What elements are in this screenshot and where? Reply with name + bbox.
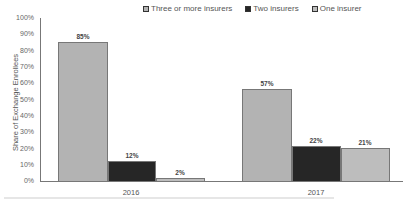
bar-label: 21% xyxy=(345,139,385,146)
legend-swatch-three-or-more xyxy=(143,6,149,12)
bar-2017-three-or-more xyxy=(242,89,292,182)
y-tick: 80% xyxy=(10,47,34,54)
y-tick: 60% xyxy=(10,79,34,86)
bar-2017-one xyxy=(341,148,390,182)
bar-2016-two xyxy=(108,161,156,182)
y-tick: 100% xyxy=(10,14,34,21)
source-note xyxy=(4,197,334,199)
bar-label: 2% xyxy=(160,169,200,176)
bar-label: 22% xyxy=(296,137,336,144)
legend-item-one: One insurer xyxy=(312,4,362,13)
x-tick-2017: 2017 xyxy=(296,188,336,197)
y-tick: 90% xyxy=(10,30,34,37)
y-tick: 40% xyxy=(10,112,34,119)
legend-item-three-or-more: Three or more insurers xyxy=(143,4,232,13)
y-axis xyxy=(40,18,41,182)
legend: Three or more insurers Two insurers One … xyxy=(143,4,362,13)
legend-swatch-one xyxy=(312,6,318,12)
bar-2016-three-or-more xyxy=(58,42,108,182)
y-tick: 30% xyxy=(10,128,34,135)
bar-label: 12% xyxy=(112,152,152,159)
legend-label: Three or more insurers xyxy=(151,4,232,13)
legend-label: Two insurers xyxy=(253,4,298,13)
x-tick-2016: 2016 xyxy=(111,188,151,197)
y-tick: 50% xyxy=(10,96,34,103)
bar-label: 57% xyxy=(247,80,287,87)
y-tick: 70% xyxy=(10,63,34,70)
bar-2017-two xyxy=(292,146,341,182)
y-tick: 10% xyxy=(10,161,34,168)
legend-swatch-two xyxy=(245,6,251,12)
y-tick: 0% xyxy=(10,177,34,184)
legend-label: One insurer xyxy=(320,4,362,13)
legend-item-two: Two insurers xyxy=(245,4,298,13)
bar-label: 85% xyxy=(63,33,103,40)
bar-2016-one xyxy=(156,178,205,182)
y-tick: 20% xyxy=(10,145,34,152)
